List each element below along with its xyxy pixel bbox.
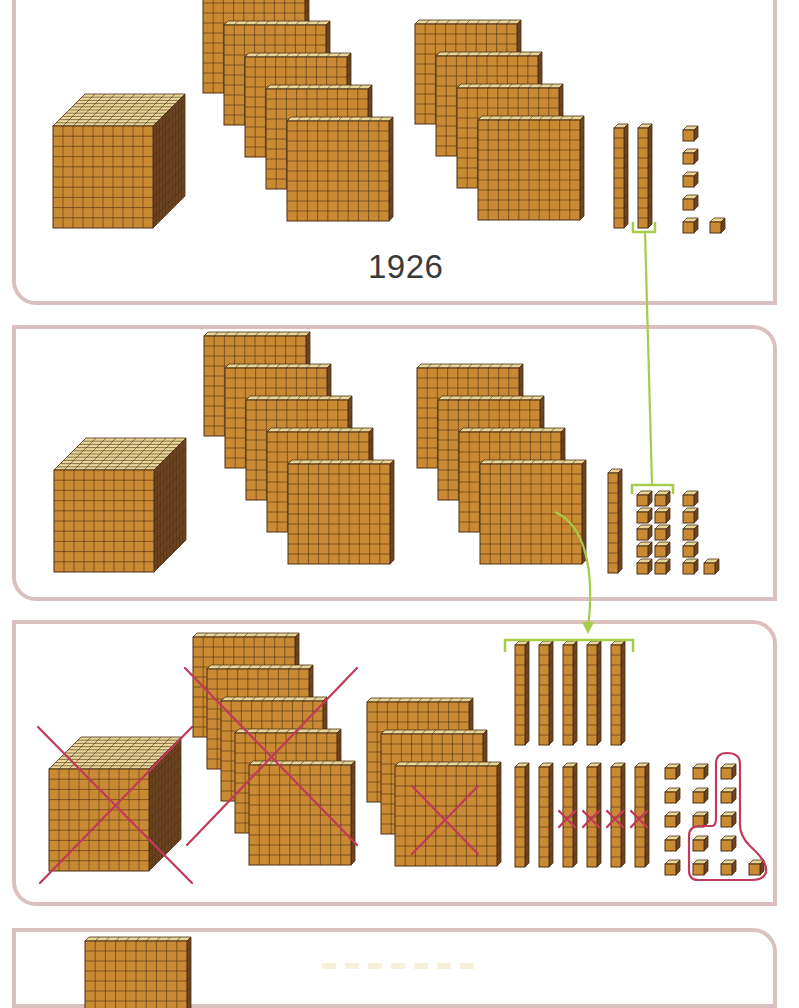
p1-hundred-flat-right-3 — [478, 116, 584, 220]
p1-one-unit-4 — [683, 218, 698, 233]
p1-one-unit-2 — [683, 172, 698, 187]
p3-one-unit-11 — [721, 788, 736, 803]
p3-hundred-flat-crossed-4 — [249, 761, 355, 865]
p4-faint-block-top — [414, 963, 428, 969]
p2-regrouped-unit-5 — [655, 491, 670, 506]
p2-one-unit-1 — [683, 508, 698, 523]
p2-one-unit-3 — [683, 542, 698, 557]
p2-one-unit-2 — [683, 525, 698, 540]
p2-regrouped-unit-1 — [637, 508, 652, 523]
p4-faint-block-top — [322, 963, 336, 969]
p1-ten-rod-0 — [614, 124, 628, 228]
p3-hundred-flat-remaining-2 — [395, 762, 501, 866]
p3-ten-rod-1 — [539, 763, 553, 867]
p3-one-unit-9 — [693, 860, 708, 875]
p2-hundred-flat-left-4 — [288, 460, 394, 564]
p4-faint-block-top — [345, 963, 359, 969]
p2-regrouped-unit-3 — [637, 542, 652, 557]
p2-thousand-cube-icon — [54, 438, 186, 572]
p3-regrouped-ten-rod-1 — [539, 641, 553, 745]
p3-one-unit-15 — [749, 860, 764, 875]
p2-one-unit-0 — [683, 491, 698, 506]
p2-regrouped-unit-2 — [637, 525, 652, 540]
p3-ten-rod-0 — [515, 763, 529, 867]
p3-one-unit-8 — [693, 836, 708, 851]
p3-regrouped-ten-rod-0 — [515, 641, 529, 745]
green-connector-line — [645, 232, 652, 484]
p3-one-unit-7 — [693, 812, 708, 827]
p2-regrouped-unit-8 — [655, 542, 670, 557]
p2-hundred-flat-right-3 — [480, 460, 586, 564]
p3-regrouped-ten-rod-3 — [587, 641, 601, 745]
p1-one-unit-0 — [683, 126, 698, 141]
p3-regrouped-ten-rod-2 — [563, 641, 577, 745]
p2-one-unit-5 — [704, 559, 719, 574]
p1-one-unit-5 — [710, 218, 725, 233]
p3-one-unit-1 — [665, 788, 680, 803]
p2-regrouped-unit-7 — [655, 525, 670, 540]
p2-regrouped-unit-6 — [655, 508, 670, 523]
p3-one-unit-2 — [665, 812, 680, 827]
p4-faint-block-top — [460, 963, 474, 969]
green-arrow-head-icon — [582, 622, 594, 634]
p4-faint-block-top — [368, 963, 382, 969]
p3-one-unit-0 — [665, 764, 680, 779]
p1-hundred-flat-left-4 — [287, 117, 393, 221]
p1-thousand-cube-icon — [53, 94, 185, 228]
p4-hundred-flat — [85, 937, 191, 1008]
p1-one-unit-1 — [683, 149, 698, 164]
p2-regrouped-unit-0 — [637, 491, 652, 506]
p4-faint-block-top — [391, 963, 405, 969]
p3-one-unit-6 — [693, 788, 708, 803]
p1-one-unit-3 — [683, 195, 698, 210]
p1-ten-rod-1 — [638, 124, 652, 228]
p3-one-unit-4 — [665, 860, 680, 875]
p3-one-unit-12 — [721, 812, 736, 827]
p2-ten-rod-0 — [608, 469, 622, 573]
p2-regrouped-unit-9 — [655, 559, 670, 574]
p3-regrouped-ten-rod-4 — [611, 641, 625, 745]
p3-one-unit-5 — [693, 764, 708, 779]
p2-regrouped-unit-4 — [637, 559, 652, 574]
p3-one-unit-13 — [721, 836, 736, 851]
p3-one-unit-14 — [721, 860, 736, 875]
p4-faint-block-top — [437, 963, 451, 969]
p3-one-unit-10 — [721, 764, 736, 779]
p3-one-unit-3 — [665, 836, 680, 851]
p2-one-unit-4 — [683, 559, 698, 574]
